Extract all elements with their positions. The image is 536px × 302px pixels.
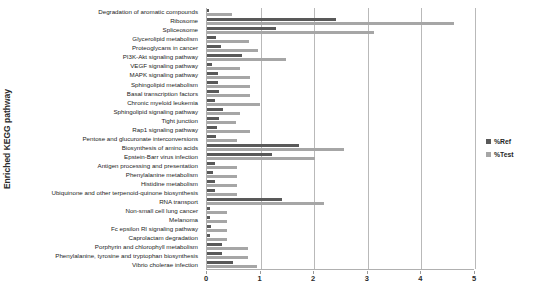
bar-group [207, 71, 474, 80]
bar-group [207, 107, 474, 116]
category-label: MAPK signaling pathway [14, 71, 202, 80]
bar-test [207, 67, 240, 70]
bar-ref [207, 243, 222, 246]
bar-test [207, 112, 240, 115]
bar-ref [207, 216, 210, 219]
bar-ref [207, 9, 209, 12]
bar-group [207, 260, 474, 269]
bar-test [207, 166, 237, 169]
category-label: Degradation of aromatic compounds [14, 8, 202, 17]
category-label: Fc epsilon RI signaling pathway [14, 225, 202, 234]
bar-test [207, 130, 250, 133]
bar-group [207, 26, 474, 35]
bar-test [207, 211, 227, 214]
bar-group [207, 233, 474, 242]
gridline [475, 8, 476, 269]
bar-group [207, 179, 474, 188]
category-label: Rap1 signaling pathway [14, 125, 202, 134]
x-tick-label: 5 [472, 274, 476, 283]
bar-ref [207, 180, 215, 183]
bar-group [207, 98, 474, 107]
bar-test [207, 265, 257, 268]
bar-group [207, 8, 474, 17]
bar-ref [207, 198, 282, 201]
bar-test [207, 175, 237, 178]
legend-swatch-icon [486, 139, 491, 144]
bar-test [207, 193, 237, 196]
bar-test [207, 121, 236, 124]
bar-group [207, 251, 474, 260]
bar-group [207, 215, 474, 224]
legend-label: %Test [494, 151, 514, 158]
bar-ref [207, 63, 212, 66]
bar-ref [207, 189, 215, 192]
category-label: VEGF signaling pathway [14, 62, 202, 71]
category-label: Sphingolipid signaling pathway [14, 107, 202, 116]
category-label: Ubiquinone and other terpenoid-quinone b… [14, 189, 202, 198]
y-axis-title-text: Enriched KEGG pathway [2, 89, 12, 189]
x-tick-label: 0 [204, 274, 208, 283]
bar-group [207, 143, 474, 152]
bar-test [207, 22, 454, 25]
bar-group [207, 89, 474, 98]
category-label: Melanoma [14, 216, 202, 225]
bar-group [207, 197, 474, 206]
bar-test [207, 202, 324, 205]
category-label: Antigen processing and presentation [14, 162, 202, 171]
bar-ref [207, 90, 219, 93]
bar-ref [207, 108, 223, 111]
x-tick-label: 2 [311, 274, 315, 283]
bar-ref [207, 207, 210, 210]
bar-group [207, 44, 474, 53]
bar-test [207, 184, 237, 187]
category-label: Proteoglycans in cancer [14, 44, 202, 53]
bar-group [207, 125, 474, 134]
chart-legend: %Ref%Test [486, 138, 534, 158]
bar-test [207, 31, 374, 34]
bar-ref [207, 27, 276, 30]
bar-ref [207, 36, 216, 39]
bar-test [207, 220, 227, 223]
bar-test [207, 49, 258, 52]
legend-swatch-icon [486, 152, 491, 157]
bar-test [207, 157, 315, 160]
bar-ref [207, 135, 216, 138]
category-label: Biosynthesis of amino acids [14, 143, 202, 152]
x-tick-label: 4 [418, 274, 422, 283]
y-axis-title: Enriched KEGG pathway [0, 0, 14, 278]
bar-test [207, 85, 250, 88]
bar-test [207, 103, 260, 106]
bar-group [207, 62, 474, 71]
bar-group [207, 80, 474, 89]
legend-item[interactable]: %Ref [486, 138, 534, 145]
bar-ref [207, 99, 215, 102]
category-label: Histidine metabolism [14, 180, 202, 189]
category-label: Tight junction [14, 116, 202, 125]
bar-test [207, 13, 232, 16]
category-label: Caprolactam degradation [14, 234, 202, 243]
bar-group [207, 242, 474, 251]
bar-test [207, 94, 250, 97]
bar-test [207, 58, 286, 61]
bar-ref [207, 81, 218, 84]
bar-group [207, 170, 474, 179]
bar-test [207, 238, 227, 241]
bar-ref [207, 261, 233, 264]
legend-item[interactable]: %Test [486, 151, 534, 158]
bar-ref [207, 45, 221, 48]
bar-ref [207, 252, 222, 255]
bar-ref [207, 171, 213, 174]
bar-ref [207, 126, 217, 129]
category-label: Glycerolipid metabolism [14, 35, 202, 44]
bar-ref [207, 18, 336, 21]
bar-group [207, 188, 474, 197]
x-tick-label: 3 [365, 274, 369, 283]
category-label: Phenylalanine, tyrosine and tryptophan b… [14, 252, 202, 261]
bar-test [207, 256, 248, 259]
x-axis-ticks: 012345 [206, 271, 474, 287]
bar-group [207, 53, 474, 62]
bar-test [207, 40, 249, 43]
bar-group [207, 134, 474, 143]
category-label: Pentose and glucuronate interconversions [14, 134, 202, 143]
bar-group [207, 35, 474, 44]
